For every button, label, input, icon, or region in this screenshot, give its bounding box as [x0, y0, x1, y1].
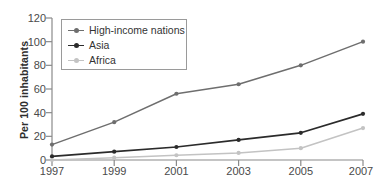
y-axis-ticks [46, 18, 52, 160]
data-point [174, 92, 178, 96]
data-point [237, 138, 241, 142]
data-point [237, 151, 241, 155]
legend-marker-icon [68, 26, 84, 36]
data-point [174, 153, 178, 157]
legend-marker-icon [68, 56, 84, 66]
x-tick-label: 2001 [164, 165, 188, 177]
legend: High-income nations Asia Africa [61, 19, 187, 70]
legend-item-africa: Africa [68, 53, 186, 68]
data-point [361, 40, 365, 44]
data-point [237, 82, 241, 86]
x-tick-label: 2007 [349, 165, 373, 177]
x-axis-ticks [52, 160, 363, 166]
data-point [299, 63, 303, 67]
plot-area [0, 0, 389, 188]
legend-item-high-income-nations: High-income nations [68, 23, 186, 38]
legend-item-label: High-income nations [89, 25, 185, 36]
data-point [361, 112, 365, 116]
legend-item-label: Africa [89, 55, 116, 66]
data-point [112, 156, 116, 160]
legend-item-asia: Asia [68, 38, 186, 53]
series-asia [50, 112, 365, 159]
legend-marker-icon [68, 41, 84, 51]
x-tick-label: 1999 [102, 165, 126, 177]
x-tick-label: 2005 [289, 165, 313, 177]
legend-item-label: Asia [89, 40, 109, 51]
data-point [112, 120, 116, 124]
x-tick-label: 1997 [40, 165, 64, 177]
series-line [52, 114, 363, 157]
data-point [361, 126, 365, 130]
data-point [50, 158, 54, 162]
data-point [299, 131, 303, 135]
x-tick-label: 2003 [226, 165, 250, 177]
data-point [299, 146, 303, 150]
line-chart: Per 100 inhabitants 120 100 80 60 40 20 … [0, 0, 389, 188]
data-point [50, 143, 54, 147]
data-point [112, 150, 116, 154]
data-point [174, 145, 178, 149]
